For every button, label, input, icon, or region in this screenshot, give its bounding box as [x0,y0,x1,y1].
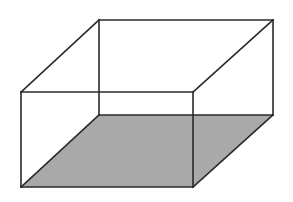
bottom-face-shaded [21,115,273,187]
edge-top-left-depth [21,20,99,92]
edge-top-right-depth [193,20,273,92]
cuboid-diagram [0,0,293,202]
